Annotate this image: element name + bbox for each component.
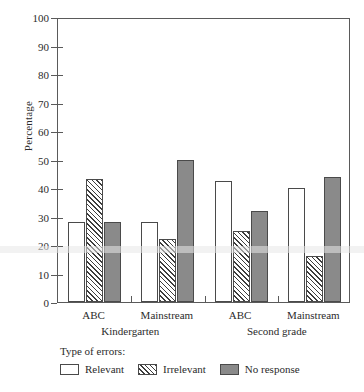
y-axis-tick-label: 100: [3, 13, 49, 24]
legend-swatch-relevant: [60, 364, 79, 375]
bar: [251, 211, 268, 302]
y-axis-tick: [51, 18, 57, 19]
y-axis-tick-inner: [58, 132, 63, 133]
x-axis-category-label: ABC: [229, 309, 252, 321]
legend-label-no-response: No response: [245, 364, 300, 375]
legend-label-relevant: Relevant: [85, 364, 124, 375]
x-axis-category-label: Mainstream: [141, 309, 194, 321]
y-axis-tick-inner: [58, 161, 63, 162]
y-axis-tick-label: 30: [3, 212, 49, 223]
y-axis-tick-label: 50: [3, 155, 49, 166]
y-axis-tick-inner: [58, 246, 63, 247]
plot-area: [57, 18, 350, 303]
y-axis-tick: [51, 246, 57, 247]
legend-item-no-response: No response: [220, 364, 300, 375]
y-axis-tick: [51, 47, 57, 48]
bar-chart-figure: Percentage 0102030405060708090100 Type o…: [0, 0, 364, 392]
x-axis-tick: [131, 296, 132, 302]
bar: [324, 177, 341, 302]
y-axis-tick: [51, 132, 57, 133]
y-axis-tick-inner: [58, 189, 63, 190]
bar: [215, 181, 232, 302]
y-axis-tick: [51, 104, 57, 105]
legend-title: Type of errors:: [60, 345, 125, 357]
y-axis-tick-label: 40: [3, 184, 49, 195]
legend-swatch-irrelevant: [138, 364, 157, 375]
x-axis-tick: [205, 296, 206, 302]
y-axis-tick-label: 90: [3, 41, 49, 52]
legend: Relevant Irrelevant No response: [60, 364, 300, 375]
legend-label-irrelevant: Irrelevant: [163, 364, 206, 375]
y-axis-tick: [51, 275, 57, 276]
x-axis-group-label: Second grade: [247, 325, 307, 337]
y-axis-tick: [51, 303, 57, 304]
x-axis-tick: [278, 296, 279, 302]
bar: [306, 256, 323, 302]
y-axis-tick-label: 60: [3, 127, 49, 138]
y-axis-tick: [51, 189, 57, 190]
bar: [86, 179, 103, 302]
y-axis-tick-inner: [58, 275, 63, 276]
y-axis-tick-inner: [58, 47, 63, 48]
x-axis-group-label: Kindergarten: [101, 325, 159, 337]
y-axis-tick-inner: [58, 75, 63, 76]
y-axis-tick-label: 0: [3, 298, 49, 309]
bar: [68, 222, 85, 302]
y-axis-tick: [51, 218, 57, 219]
y-axis-tick-labels: 0102030405060708090100: [0, 0, 49, 392]
y-axis-tick-label: 70: [3, 98, 49, 109]
legend-item-relevant: Relevant: [60, 364, 124, 375]
bar: [288, 188, 305, 302]
y-axis-tick-label: 10: [3, 269, 49, 280]
bar: [177, 160, 194, 303]
x-axis-category-label: Mainstream: [287, 309, 340, 321]
y-axis-tick-inner: [58, 218, 63, 219]
x-axis-category-label: ABC: [82, 309, 105, 321]
y-axis-tick: [51, 161, 57, 162]
bar: [104, 222, 121, 302]
y-axis-tick-label: 20: [3, 241, 49, 252]
bar: [141, 222, 158, 302]
bar: [233, 231, 250, 302]
legend-swatch-no-response: [220, 364, 239, 375]
y-axis-tick-inner: [58, 104, 63, 105]
legend-item-irrelevant: Irrelevant: [138, 364, 206, 375]
y-axis-tick: [51, 75, 57, 76]
y-axis-tick-label: 80: [3, 70, 49, 81]
bar: [159, 239, 176, 302]
